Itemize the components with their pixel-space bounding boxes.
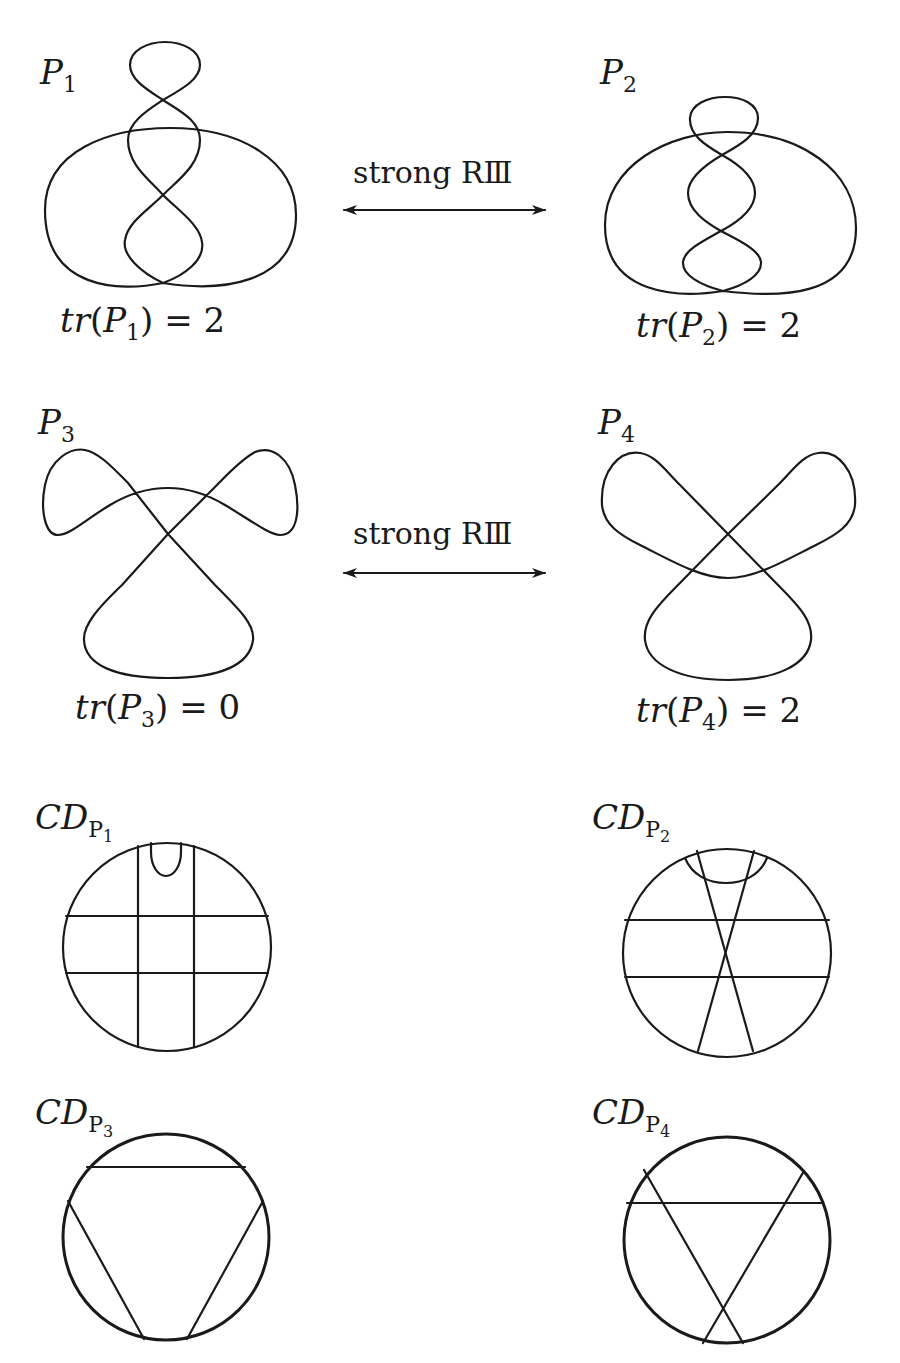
curve-index: 1 xyxy=(63,72,77,97)
cd-prefix: CD xyxy=(592,1092,645,1132)
curve-index: 2 xyxy=(623,72,637,97)
cd-prefix: CD xyxy=(35,797,88,837)
cd-sub-name: P xyxy=(88,817,103,842)
cd-sub-name: P xyxy=(645,817,660,842)
chord-arc xyxy=(685,858,767,883)
trace-fn: tr xyxy=(636,305,666,345)
curve-p2 xyxy=(605,97,856,294)
chord-small-arc xyxy=(151,843,181,876)
curve-index: 3 xyxy=(141,707,155,732)
curve-index: 3 xyxy=(61,422,75,447)
chord-diagram-label-p2: CDP2 xyxy=(592,800,670,845)
trace-equation-p3: tr(P3) = 0 xyxy=(75,690,240,731)
curve-name: P xyxy=(103,300,126,340)
curve-label-p2: P2 xyxy=(600,55,637,96)
curve-name: P xyxy=(598,402,621,442)
cd-sub-name: P xyxy=(88,1112,103,1137)
curve-label-p4: P4 xyxy=(598,405,635,446)
cd-sub-index: 2 xyxy=(660,827,670,846)
trace-fn: tr xyxy=(636,690,666,730)
curve-index: 4 xyxy=(621,422,635,447)
equals-sign: = xyxy=(740,305,769,345)
chord-diagram-p4-circle xyxy=(624,1137,830,1343)
cd-sub-index: 1 xyxy=(103,827,113,846)
curve-name: P xyxy=(38,402,61,442)
trace-equation-p2: tr(P2) = 2 xyxy=(636,308,801,349)
curve-name: P xyxy=(600,52,623,92)
equals-sign: = xyxy=(740,690,769,730)
curve-label-p1: P1 xyxy=(40,55,77,96)
curve-name: P xyxy=(679,690,702,730)
curve-index: 4 xyxy=(702,710,716,735)
curve-name: P xyxy=(40,52,63,92)
curve-p4 xyxy=(602,453,855,680)
figure-canvas xyxy=(0,0,900,1363)
curve-p4-path xyxy=(602,453,855,680)
equals-sign: = xyxy=(164,300,193,340)
chord-diagram-p3 xyxy=(63,1134,269,1340)
curve-p2-outer-loop xyxy=(605,132,856,294)
trace-fn: tr xyxy=(60,300,90,340)
equals-sign: = xyxy=(179,687,208,727)
curve-p3 xyxy=(43,450,297,678)
trace-fn: tr xyxy=(75,687,105,727)
curve-label-p3: P3 xyxy=(38,405,75,446)
chord-diagram-label-p3: CDP3 xyxy=(35,1095,113,1140)
cd-sub-index: 4 xyxy=(660,1122,670,1141)
trace-value: 2 xyxy=(779,690,801,730)
trace-equation-p4: tr(P4) = 2 xyxy=(636,693,801,734)
cd-prefix: CD xyxy=(35,1092,88,1132)
chord-diagram-label-p4: CDP4 xyxy=(592,1095,670,1140)
curve-p1-braid xyxy=(125,42,203,283)
chord-diagram-p1 xyxy=(63,843,271,1051)
cd-sub-name: P xyxy=(645,1112,660,1137)
chord-diagram-label-p1: CDP1 xyxy=(35,800,113,845)
curve-name: P xyxy=(679,305,702,345)
chord xyxy=(68,1201,144,1339)
cd-prefix: CD xyxy=(592,797,645,837)
chord-diagram-p4 xyxy=(624,1137,830,1343)
cd-sub-index: 3 xyxy=(103,1122,113,1141)
chord xyxy=(703,1171,804,1343)
move-label-row1: strong RⅢ xyxy=(353,158,512,188)
curve-index: 1 xyxy=(126,320,140,345)
trace-equation-p1: tr(P1) = 2 xyxy=(60,303,225,344)
curve-p3-path xyxy=(43,450,297,678)
curve-p2-braid xyxy=(683,97,761,291)
chord-diagram-p3-circle xyxy=(63,1134,269,1340)
curve-p1-outer-loop xyxy=(45,128,296,287)
curve-name: P xyxy=(118,687,141,727)
chord-diagram-p2 xyxy=(623,849,831,1057)
move-label-row2: strong RⅢ xyxy=(353,519,512,549)
curve-p1 xyxy=(45,42,296,287)
curve-index: 2 xyxy=(702,325,716,350)
chord xyxy=(187,1201,263,1339)
chord-diagram-p2-circle xyxy=(623,849,831,1057)
trace-value: 2 xyxy=(203,300,225,340)
chord-diagram-p1-circle xyxy=(63,843,271,1051)
trace-value: 0 xyxy=(218,687,240,727)
trace-value: 2 xyxy=(779,305,801,345)
